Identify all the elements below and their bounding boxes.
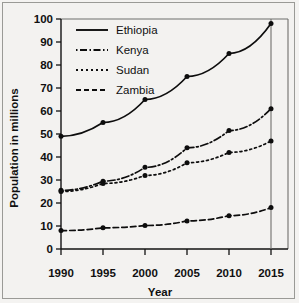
legend-label: Kenya xyxy=(116,44,149,56)
data-point xyxy=(101,120,106,125)
x-tick-labels: 1990 1995 2000 2005 2010 2015 xyxy=(48,267,284,279)
y-tick-label: 30 xyxy=(40,174,53,186)
series-line-sudan xyxy=(61,141,271,192)
y-tick-label: 0 xyxy=(47,243,53,255)
data-point xyxy=(227,150,232,155)
legend-label: Sudan xyxy=(116,64,149,76)
data-point xyxy=(227,213,232,218)
series-line-ethiopia xyxy=(61,24,271,137)
data-point xyxy=(269,138,274,143)
data-point xyxy=(185,160,190,165)
y-tick-labels: 100 90 80 70 60 50 40 30 20 10 0 xyxy=(34,13,53,255)
data-point xyxy=(101,225,106,230)
y-tick-label: 80 xyxy=(40,59,53,71)
data-point xyxy=(59,228,64,233)
series-line-kenya xyxy=(61,109,271,191)
series-kenya xyxy=(59,106,274,193)
x-tick-label: 1995 xyxy=(90,267,116,279)
data-point xyxy=(59,134,64,139)
series-line-zambia xyxy=(61,208,271,231)
x-tick-label: 2000 xyxy=(132,267,158,279)
y-axis-title: Population in millions xyxy=(8,88,20,207)
x-tick-label: 2015 xyxy=(258,267,284,279)
y-tick-label: 10 xyxy=(40,220,53,232)
y-tick-label: 40 xyxy=(40,151,53,163)
data-point xyxy=(59,189,64,194)
data-point xyxy=(269,205,274,210)
data-point xyxy=(185,145,190,150)
data-point xyxy=(269,21,274,26)
line-chart: Population in millions Year 100 90 80 70… xyxy=(0,0,299,303)
chart-svg: Population in millions Year 100 90 80 70… xyxy=(0,0,299,303)
y-tick-label: 50 xyxy=(40,128,53,140)
legend: Ethiopia Kenya Sudan Zambia xyxy=(76,24,158,96)
x-tick-label: 2005 xyxy=(174,267,200,279)
series-layer xyxy=(59,21,274,233)
data-point xyxy=(143,165,148,170)
chart-page: Population in millions Year 100 90 80 70… xyxy=(0,0,299,303)
y-tick-label: 100 xyxy=(34,13,53,25)
legend-item-ethiopia[interactable]: Ethiopia xyxy=(76,24,158,36)
x-axis-ticks xyxy=(61,249,271,255)
y-tick-label: 20 xyxy=(40,197,53,209)
y-axis-title-text: Population in millions xyxy=(8,88,20,207)
data-point xyxy=(143,97,148,102)
data-point xyxy=(227,128,232,133)
data-point xyxy=(143,173,148,178)
data-point xyxy=(269,106,274,111)
data-point xyxy=(185,218,190,223)
legend-item-sudan[interactable]: Sudan xyxy=(76,64,149,76)
y-tick-label: 70 xyxy=(40,82,53,94)
data-point xyxy=(143,223,148,228)
legend-label: Zambia xyxy=(116,84,155,96)
x-tick-label: 1990 xyxy=(48,267,74,279)
x-axis-title-text: Year xyxy=(148,286,173,298)
y-tick-label: 90 xyxy=(40,36,53,48)
data-point xyxy=(185,74,190,79)
series-ethiopia xyxy=(59,21,274,139)
legend-label: Ethiopia xyxy=(116,24,158,36)
y-tick-label: 60 xyxy=(40,105,53,117)
legend-item-kenya[interactable]: Kenya xyxy=(76,44,149,56)
data-point xyxy=(227,51,232,56)
plot-frame xyxy=(61,19,288,249)
x-tick-label: 2010 xyxy=(216,267,242,279)
series-zambia xyxy=(59,205,274,233)
legend-item-zambia[interactable]: Zambia xyxy=(76,84,155,96)
data-point xyxy=(101,181,106,186)
